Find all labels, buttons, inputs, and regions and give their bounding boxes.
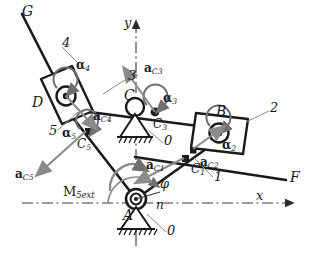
slider-block-d bbox=[41, 66, 93, 124]
moment-label-m5ext: M5ext bbox=[63, 185, 95, 199]
point-label-d: D bbox=[32, 95, 43, 109]
point-label-g: G bbox=[22, 4, 33, 18]
alpha-label-4: α4 bbox=[76, 59, 90, 72]
ground-label-bottom: 0 bbox=[167, 224, 175, 237]
axis-label-y: y bbox=[124, 16, 131, 29]
alpha-label-3: α3 bbox=[163, 92, 177, 105]
accel-label-a-c5: aC5 bbox=[15, 168, 34, 181]
point-label-b: B bbox=[216, 104, 226, 118]
alpha-label-2: α2 bbox=[222, 139, 236, 152]
axis-label-x: x bbox=[256, 189, 263, 202]
accel-label-a-c3: aC3 bbox=[144, 62, 163, 75]
link-label-3: 3 bbox=[128, 69, 136, 82]
link-label-4: 4 bbox=[62, 36, 70, 49]
leader-link-2 bbox=[246, 111, 269, 122]
link-label-2: 2 bbox=[270, 101, 278, 114]
ground-label-top: 0 bbox=[164, 134, 172, 147]
axis-label-n: n bbox=[156, 199, 164, 211]
link-label-1: 1 bbox=[214, 170, 222, 183]
point-label-c: C bbox=[124, 88, 135, 102]
angle-label-phi: φ bbox=[160, 177, 169, 190]
alpha-label-5: α5 bbox=[62, 127, 76, 140]
accel-label-a-c1: aC1 bbox=[146, 159, 165, 172]
kinematic-diagram-canvas: G D C B A F 4 3 2 5 1 0 0 C1 C3 C5 aC1 a… bbox=[0, 0, 326, 259]
accel-label-a-c2: aC2 bbox=[200, 156, 219, 169]
mass-center-label-c5: C5 bbox=[77, 138, 91, 151]
mass-center-label-c3: C3 bbox=[153, 118, 167, 131]
point-label-a: A bbox=[123, 208, 133, 222]
point-label-f: F bbox=[290, 170, 300, 184]
accel-label-a-c4: aC4 bbox=[93, 110, 112, 123]
link-label-5: 5 bbox=[49, 124, 57, 137]
